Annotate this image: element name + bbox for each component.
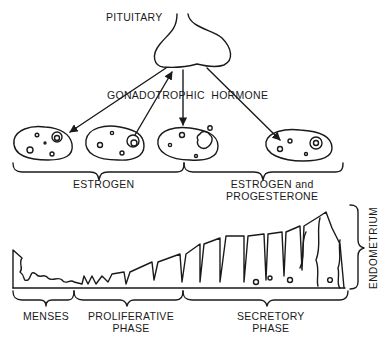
endometrium-label: ENDOMETRIUM (368, 207, 379, 289)
estrogen-progesterone-label: ESTROGEN and PROGESTERONE (226, 178, 318, 202)
diagram-canvas (0, 0, 391, 343)
estrogen-progesterone-line1: ESTROGEN and (226, 178, 318, 190)
secretory-line2: PHASE (237, 322, 305, 334)
hormone-label: GONADOTROPHIC HORMONE (107, 89, 268, 101)
pituitary-gland-icon (154, 14, 230, 67)
menses-label: MENSES (23, 310, 69, 322)
estrogen-progesterone-line2: PROGESTERONE (226, 190, 318, 202)
hormone-arrows (70, 68, 280, 140)
endometrium-profile (13, 212, 345, 288)
proliferative-phase-label: PROLIFERATIVE PHASE (88, 310, 174, 334)
ovary-stage-2 (86, 126, 144, 160)
ovary-stage-3 (158, 126, 218, 160)
ovary-stage-1 (14, 127, 72, 160)
secretory-phase-label: SECRETORY PHASE (237, 310, 305, 334)
proliferative-line1: PROLIFERATIVE (88, 310, 174, 322)
secretory-line1: SECRETORY (237, 310, 305, 322)
brace-endometrium (350, 205, 364, 289)
estrogen-label: ESTROGEN (73, 178, 134, 190)
proliferative-line2: PHASE (88, 322, 174, 334)
brace-secretory (183, 291, 348, 306)
brace-menses (13, 291, 74, 306)
ovary-stage-4 (266, 130, 332, 162)
brace-proliferative (74, 291, 183, 306)
pituitary-label: PITUITARY (106, 11, 163, 23)
